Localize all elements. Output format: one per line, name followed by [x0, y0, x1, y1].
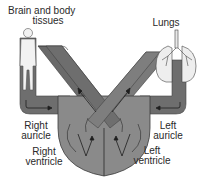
- label-left-auricle-line2: auricle: [150, 131, 186, 141]
- circulation-diagram: Brain and body tissues Lungs Right auric…: [0, 0, 208, 184]
- label-right-ventricle-line2: ventricle: [24, 157, 64, 167]
- label-right-auricle: Right auricle: [18, 121, 54, 141]
- label-left-ventricle-line2: ventricle: [130, 156, 174, 166]
- label-right-auricle-line2: auricle: [18, 131, 54, 141]
- label-left-auricle: Left auricle: [150, 121, 186, 141]
- label-lungs: Lungs: [146, 18, 186, 28]
- label-brain-body-tissues: Brain and body tissues: [8, 6, 74, 26]
- label-brain-line2: tissues: [22, 16, 74, 26]
- label-right-ventricle: Right ventricle: [24, 147, 64, 167]
- label-left-ventricle: Left ventricle: [130, 146, 174, 166]
